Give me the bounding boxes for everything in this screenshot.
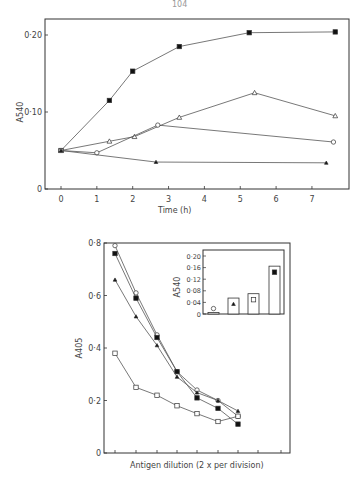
open-circle-marker-icon [156, 123, 160, 127]
inset-bar [228, 298, 239, 314]
top-x-tick-label: 5 [238, 195, 243, 204]
bottom-series-group [113, 243, 240, 426]
series-filled-square [59, 30, 338, 153]
time-course-chart: 01234567 00·100·20 Time (h) A540 [16, 19, 349, 215]
bottom-y-axis-label: A405 [75, 338, 84, 359]
inset-y-axis-label: A540 [173, 277, 182, 298]
bottom-y-tick-label: 0·6 [88, 292, 101, 301]
top-x-axis-label: Time (h) [157, 206, 191, 215]
inset-y-tick-label: 0 [197, 311, 201, 319]
open-triangle-marker-icon [252, 90, 257, 94]
figure-canvas: 01234567 00·100·20 Time (h) A540 00·20·4… [0, 0, 362, 485]
open-square-marker-icon [216, 419, 220, 423]
top-x-tick-label: 2 [130, 195, 135, 204]
top-plot-frame [45, 19, 349, 189]
filled-square-marker-icon [134, 296, 138, 300]
filled-square-marker-icon [107, 98, 111, 102]
inset-bar [208, 306, 219, 314]
open-square-marker-icon [236, 414, 240, 418]
filled-triangle-marker-icon [236, 409, 240, 412]
bottom-y-tick-label: 0·8 [88, 239, 101, 248]
filled-square-marker-icon [177, 44, 181, 48]
bottom-y-tick-label: 0·4 [88, 344, 101, 353]
top-y-tick-label: 0·20 [24, 31, 42, 40]
top-series-group [59, 30, 338, 165]
inset-y-tick-label: 0·04 [187, 299, 201, 307]
filled-square-marker-icon [247, 30, 251, 34]
inset-y-tick-label: 0·20 [187, 253, 201, 261]
top-x-tick-label: 1 [94, 195, 99, 204]
filled-square-marker-icon [131, 69, 135, 73]
open-square-marker-icon [113, 351, 117, 355]
top-y-axis-label: A540 [16, 102, 25, 123]
filled-triangle-marker-icon [154, 160, 158, 163]
filled-triangle-marker-icon [134, 315, 138, 318]
series-filled-triangle [59, 149, 328, 165]
top-y-tick-label: 0 [37, 185, 42, 194]
top-y-axis: 00·100·20 [24, 31, 48, 194]
antigen-dilution-chart: 00·20·40·60·8 Antigen dilution (2 x per … [75, 239, 290, 470]
open-circle-marker-icon [331, 140, 335, 144]
filled-square-marker-icon [333, 30, 337, 34]
filled-square-marker-icon [175, 369, 179, 373]
bottom-plot-frame [104, 243, 290, 453]
filled-triangle-marker-icon [113, 278, 117, 281]
series-open-circle [59, 123, 336, 155]
series-open-circle [113, 243, 240, 418]
filled-square-marker-icon [195, 396, 199, 400]
filled-square-marker-icon [113, 251, 117, 255]
inset-y-tick-label: 0·08 [187, 287, 201, 295]
top-x-tick-label: 4 [202, 195, 207, 204]
bottom-y-tick-label: 0·2 [88, 397, 101, 406]
top-x-tick-label: 6 [274, 195, 279, 204]
filled-square-marker-icon [216, 406, 220, 410]
inset-bar [269, 266, 280, 314]
inset-bars-group [208, 266, 280, 314]
top-x-tick-label: 7 [309, 195, 314, 204]
filled-square-marker-icon [272, 270, 276, 274]
filled-triangle-marker-icon [324, 161, 328, 164]
inset-bar-chart: 00·040·080·120·160·20 A540 [173, 250, 284, 319]
top-y-tick-label: 0·10 [24, 108, 42, 117]
filled-square-marker-icon [155, 335, 159, 339]
open-square-marker-icon [251, 298, 255, 302]
inset-y-tick-label: 0·12 [187, 276, 201, 284]
open-circle-marker-icon [211, 306, 215, 310]
series-open-triangle [59, 90, 338, 152]
inset-y-tick-label: 0·16 [187, 264, 201, 272]
filled-square-marker-icon [236, 422, 240, 426]
top-x-tick-label: 3 [166, 195, 171, 204]
series-open-square [113, 351, 240, 424]
bottom-y-tick-label: 0 [96, 449, 101, 458]
top-x-tick-label: 0 [58, 195, 63, 204]
open-square-marker-icon [134, 385, 138, 389]
open-square-marker-icon [195, 411, 199, 415]
inset-bar [248, 294, 259, 314]
open-square-marker-icon [175, 404, 179, 408]
bottom-x-axis-label: Antigen dilution (2 x per division) [130, 461, 264, 470]
open-square-marker-icon [155, 393, 159, 397]
open-circle-marker-icon [113, 243, 117, 247]
